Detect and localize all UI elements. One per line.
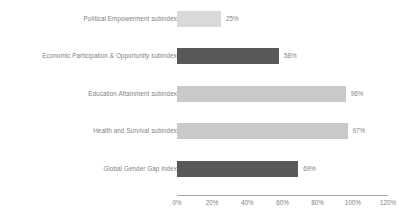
bar-group: 97%	[177, 113, 365, 151]
bar-value-label: 58%	[284, 52, 297, 60]
bar-value-label: 96%	[351, 90, 364, 98]
bar[interactable]	[177, 11, 221, 27]
bar-group: 25%	[177, 0, 239, 38]
x-axis-line	[177, 195, 388, 196]
bar-group: 69%	[177, 150, 316, 188]
bar[interactable]	[177, 123, 348, 139]
x-axis-tick: 80%	[311, 198, 324, 207]
chart-row: Global Gender Gap Index 69%	[0, 150, 399, 188]
category-label: Global Gender Gap Index	[0, 165, 177, 173]
chart-row: Economic Participation & Opportunity sub…	[0, 38, 399, 76]
plot-area: Political Empowerment subindex 25% Econo…	[0, 0, 399, 195]
x-axis-tick-labels: 0%20%40%60%80%100%120%	[0, 198, 399, 212]
category-label: Education Attainment subindex	[0, 90, 177, 98]
category-label: Economic Participation & Opportunity sub…	[0, 52, 177, 60]
category-label: Political Empowerment subindex	[0, 15, 177, 23]
chart-row: Education Attainment subindex 96%	[0, 75, 399, 113]
x-axis-tick: 60%	[276, 198, 289, 207]
bar[interactable]	[177, 161, 298, 177]
bar[interactable]	[177, 48, 279, 64]
chart-row: Political Empowerment subindex 25%	[0, 0, 399, 38]
x-axis-tick: 20%	[206, 198, 219, 207]
bar-chart: Political Empowerment subindex 25% Econo…	[0, 0, 399, 223]
bar-group: 58%	[177, 38, 297, 76]
x-axis-tick: 40%	[241, 198, 254, 207]
bar-value-label: 69%	[303, 165, 316, 173]
chart-row: Health and Survival subindex 97%	[0, 113, 399, 151]
x-axis-tick: 100%	[345, 198, 361, 207]
bar[interactable]	[177, 86, 346, 102]
category-label: Health and Survival subindex	[0, 127, 177, 135]
x-axis-tick: 120%	[380, 198, 396, 207]
bar-group: 96%	[177, 75, 363, 113]
x-axis-tick: 0%	[172, 198, 181, 207]
bar-value-label: 97%	[353, 127, 366, 135]
bar-value-label: 25%	[226, 15, 239, 23]
